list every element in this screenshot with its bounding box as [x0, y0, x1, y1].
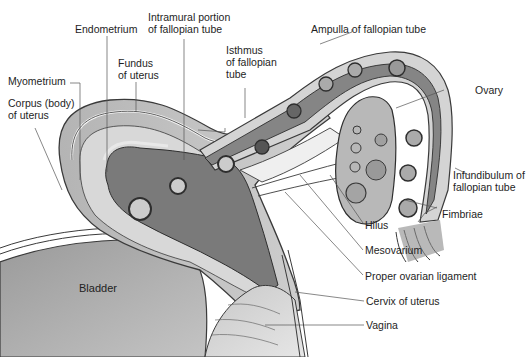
label-mesovarium: Mesovarium: [365, 244, 422, 256]
label-vagina: Vagina: [366, 319, 398, 331]
label-isthmus: Isthmus of fallopian tube: [226, 44, 277, 80]
label-fundus: Fundus of uterus: [118, 57, 159, 81]
label-hilus: Hilus: [365, 219, 388, 231]
label-ovary: Ovary: [475, 84, 503, 96]
diagram-stage: Endometrium Intramural portion of fallop…: [0, 0, 530, 357]
label-infundibulum: Infundibulum of fallopian tube: [453, 169, 525, 193]
label-endometrium: Endometrium: [75, 23, 137, 35]
label-ampulla: Ampulla of fallopian tube: [311, 23, 426, 35]
label-corpus: Corpus (body) of uterus: [8, 97, 75, 121]
label-proper-ovarian-ligament: Proper ovarian ligament: [365, 270, 476, 282]
label-fimbriae: Fimbriae: [442, 208, 483, 220]
label-myometrium: Myometrium: [8, 75, 66, 87]
label-bladder: Bladder: [79, 282, 117, 294]
ovary: [336, 97, 396, 224]
label-intramural-portion: Intramural portion of fallopian tube: [148, 11, 230, 35]
label-cervix: Cervix of uterus: [366, 295, 440, 307]
